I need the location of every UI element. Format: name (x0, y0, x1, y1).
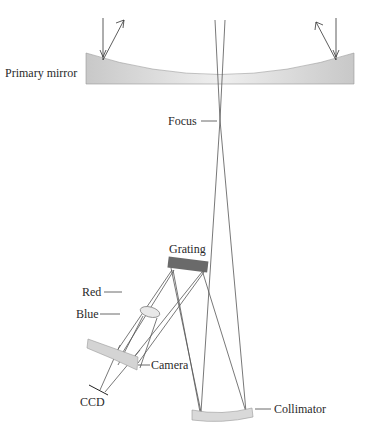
dispersed-beams (112, 270, 204, 412)
right-incoming-ray-arrow (315, 18, 339, 60)
label-collimator: Collimator (274, 402, 326, 416)
camera-mirror (87, 339, 138, 370)
label-ccd: CCD (80, 395, 105, 409)
spectrograph-diagram: Primary mirror Focus Grating Red Blue Ca… (0, 0, 369, 431)
label-focus: Focus (168, 114, 197, 128)
label-camera: Camera (151, 358, 189, 372)
label-primary-mirror: Primary mirror (5, 66, 77, 80)
label-grating: Grating (169, 242, 206, 256)
left-incoming-ray-arrow (100, 18, 124, 60)
label-blue: Blue (76, 307, 99, 321)
primary-mirror (86, 53, 354, 84)
label-red: Red (82, 285, 101, 299)
ccd-detector (89, 385, 108, 395)
